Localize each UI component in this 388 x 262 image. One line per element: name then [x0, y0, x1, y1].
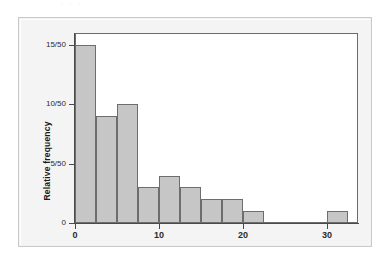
histogram-bars	[75, 33, 358, 223]
x-axis-tick-label: 0	[55, 230, 95, 240]
y-axis-tick	[69, 164, 74, 165]
histogram-bar	[96, 116, 117, 223]
y-axis-tick-label: 5/50	[50, 160, 66, 168]
histogram-bar	[180, 187, 201, 223]
x-axis-tick-label: 30	[307, 230, 347, 240]
y-axis-tick-label: 15/50	[46, 41, 66, 49]
histogram-bar	[201, 199, 222, 223]
histogram-bar	[159, 176, 180, 224]
y-axis-title-holder: Relative frequency	[30, 60, 44, 190]
histogram-bar	[138, 187, 159, 223]
histogram-bar	[222, 199, 243, 223]
plot-area	[75, 33, 358, 223]
y-axis-tick	[69, 223, 74, 224]
histogram-bar	[75, 45, 96, 223]
x-axis-tick-label: 20	[223, 230, 263, 240]
histogram-bar	[117, 104, 138, 223]
histogram-figure: · · · 05/5010/5015/50 0102030 Relative f…	[0, 0, 388, 262]
y-axis-title: Relative frequency	[42, 106, 52, 216]
y-axis-line	[74, 33, 75, 224]
histogram-bar	[327, 211, 348, 223]
x-axis-tick	[327, 224, 328, 229]
x-axis-tick	[159, 224, 160, 229]
top-text-remnant: · · ·	[60, 0, 180, 7]
y-axis-tick	[69, 104, 74, 105]
histogram-bar	[243, 211, 264, 223]
x-axis-tick-label: 10	[139, 230, 179, 240]
y-axis-tick	[69, 45, 74, 46]
x-axis-tick	[243, 224, 244, 229]
x-axis-line	[74, 223, 359, 224]
x-axis-tick	[75, 224, 76, 229]
y-axis-tick-label: 0	[62, 219, 66, 227]
